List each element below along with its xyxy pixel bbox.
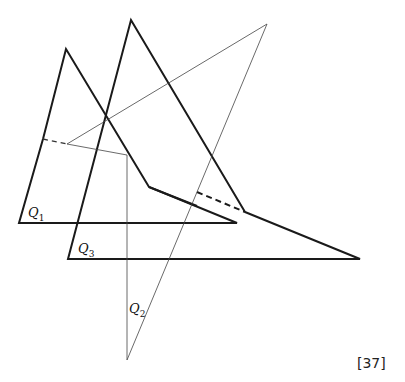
shape-q2 [67, 24, 267, 360]
label-q3: Q3 [78, 241, 94, 259]
figure-reference: [37] [357, 355, 386, 371]
shape-q1 [19, 49, 237, 223]
diagram-canvas [0, 0, 405, 382]
hidden-edge-left [43, 139, 67, 144]
label-q2: Q2 [129, 301, 145, 319]
label-q1: Q1 [28, 205, 44, 223]
